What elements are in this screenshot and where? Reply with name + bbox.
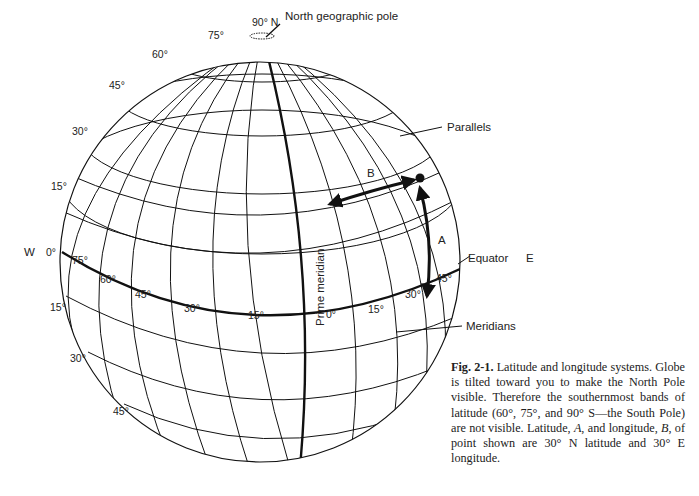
lon-label-60w: 60°	[100, 273, 116, 285]
equator-line	[62, 252, 462, 315]
point-marker	[416, 174, 425, 183]
figure-caption: Fig. 2-1. Latitude and longitude systems…	[451, 360, 685, 466]
arrow-b-label: B	[367, 167, 375, 179]
prime-meridian-label: Prime meridian	[314, 249, 326, 326]
arrow-a-latitude	[420, 188, 429, 296]
lat-label-45: 45°	[109, 79, 125, 91]
lon-label-45e: 45°	[436, 272, 452, 284]
lon-label-15w: 15°	[248, 309, 264, 321]
equator-label: Equator	[468, 252, 508, 264]
parallels-label: Parallels	[447, 121, 491, 133]
globe-outline	[60, 62, 460, 462]
caption-fig-number: Fig. 2-1.	[451, 360, 493, 374]
west-label: W	[24, 246, 35, 258]
arrow-b-longitude	[330, 180, 414, 204]
arrow-a-label: A	[438, 234, 446, 246]
east-label: E	[526, 252, 534, 264]
lat-label-15s: 15°	[50, 301, 66, 313]
north-pole-cap	[250, 33, 274, 39]
meridians-label: Meridians	[466, 320, 516, 332]
lon-label-15e: 15°	[368, 303, 384, 315]
lat-label-15n: 15°	[51, 180, 67, 192]
lat-label-75: 75°	[208, 29, 224, 41]
lon-label-30w: 30°	[184, 302, 200, 314]
lon-label-75w: 75°	[72, 254, 88, 266]
lon-label-30e: 30°	[405, 288, 421, 300]
lat-label-0: 0°	[46, 246, 56, 258]
parallels	[56, 30, 468, 316]
lon-label-0: 0°	[326, 308, 336, 320]
pole-degree-label: 90° N	[252, 16, 278, 28]
lat-label-30s: 30°	[70, 352, 86, 364]
lon-label-45w: 45°	[135, 288, 151, 300]
north-pole-label: North geographic pole	[285, 10, 398, 22]
caption-text-2: , and longitude,	[581, 421, 661, 435]
lat-label-30: 30°	[72, 125, 88, 137]
prime-meridian-line	[262, 34, 305, 468]
lat-label-60: 60°	[152, 48, 168, 60]
lat-label-45s: 45°	[113, 405, 129, 417]
